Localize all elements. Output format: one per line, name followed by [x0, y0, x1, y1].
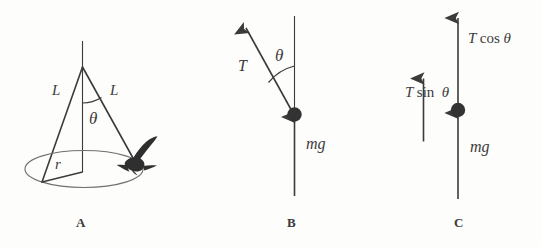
panel-letter-a: A	[76, 215, 85, 231]
radius-line	[42, 172, 83, 182]
panel-b-graphics	[246, 16, 302, 196]
figure-canvas	[0, 0, 541, 247]
label-length-right: L	[110, 83, 118, 98]
bird-silhouette-icon	[117, 136, 158, 175]
tcos-function: cos	[480, 30, 500, 46]
panel-c-graphics	[424, 18, 466, 199]
tcos-symbol: T	[468, 30, 476, 46]
angle-arc-a	[83, 98, 102, 104]
label-angle-b: θ	[275, 47, 283, 64]
tsin-function: sin	[417, 84, 435, 100]
label-weight-c: mg	[470, 139, 490, 155]
label-angle-a: θ	[89, 110, 97, 127]
label-tension-horizontal-component: T sin θ	[405, 85, 449, 100]
panel-letter-b: B	[287, 215, 296, 231]
point-mass-dot-b	[287, 107, 301, 121]
tension-vector-arrow	[246, 28, 294, 114]
physics-figure: L L θ r A T θ mg B T cos θ T sin θ mg C	[0, 0, 541, 247]
tsin-symbol: T	[405, 84, 413, 100]
label-tension-vertical-component: T cos θ	[468, 31, 511, 46]
panel-letter-c: C	[454, 215, 463, 231]
point-mass-dot-c	[451, 103, 465, 117]
tsin-angle: θ	[442, 84, 449, 100]
label-length-left: L	[52, 83, 60, 98]
label-radius: r	[55, 157, 61, 172]
string-left	[42, 67, 83, 182]
label-tension: T	[238, 58, 247, 74]
label-weight-b: mg	[306, 136, 326, 152]
tcos-angle: θ	[504, 30, 511, 46]
